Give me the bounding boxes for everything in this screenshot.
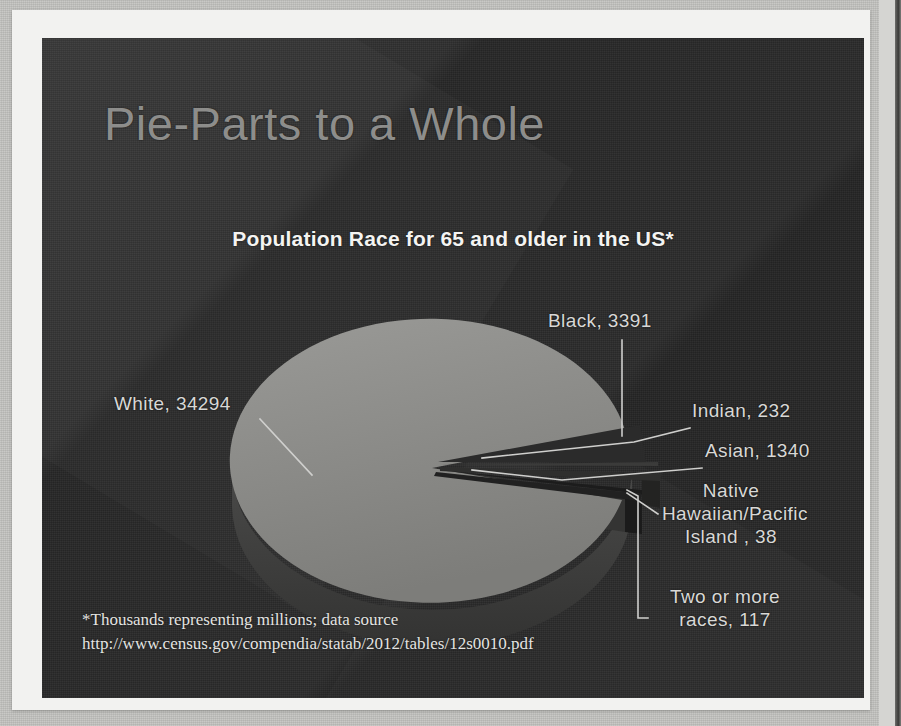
data-label-indian: Indian, 232	[692, 400, 790, 422]
footnote-source-note: *Thousands representing millions; data s…	[82, 608, 702, 632]
pie-chart: White, 34294 Black, 3391 Indian, 232 Asi…	[42, 38, 864, 698]
footnote: *Thousands representing millions; data s…	[82, 608, 702, 656]
indian-slice-top	[440, 462, 658, 466]
scanned-page: Pie-Parts to a Whole Population Race for…	[0, 0, 901, 726]
data-label-white: White, 34294	[114, 393, 231, 415]
data-label-black: Black, 3391	[548, 310, 652, 332]
data-label-native-hawaiian-pacific-island: Native Hawaiian/Pacific Island , 38	[662, 480, 800, 548]
page-edge-gap	[879, 0, 895, 726]
presentation-slide: Pie-Parts to a Whole Population Race for…	[42, 38, 864, 698]
data-label-asian: Asian, 1340	[705, 440, 810, 462]
paper-mat: Pie-Parts to a Whole Population Race for…	[12, 10, 870, 710]
page-edge-strip	[895, 0, 901, 726]
footnote-source-url: http://www.census.gov/compendia/statab/2…	[82, 632, 702, 656]
twoplus-slice-side	[625, 498, 642, 534]
